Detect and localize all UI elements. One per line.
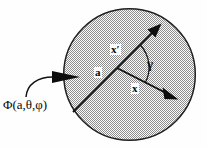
vector-label-x-prime: x′ [110, 44, 121, 55]
incident-field-leader-curve [26, 77, 53, 97]
radius-label-a: a [94, 67, 102, 78]
vector-label-x: x [131, 83, 139, 94]
figure-canvas [0, 0, 207, 149]
angle-label-gamma: γ [147, 57, 153, 70]
physics-figure: Φ(a,θ,φ) a x′ x γ [0, 0, 207, 149]
incident-field-label: Φ(a,θ,φ) [3, 98, 47, 111]
